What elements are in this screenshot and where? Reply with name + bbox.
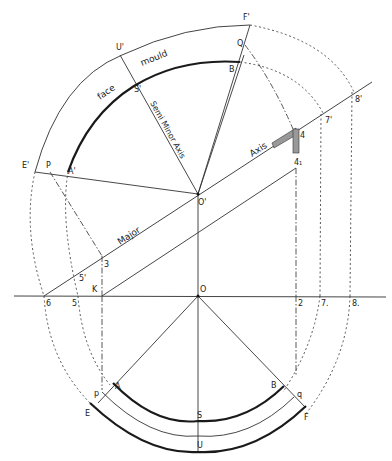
label-5-prime: 5': [79, 274, 86, 283]
radial-lower-a: [98, 296, 198, 403]
point-o-prime: [197, 193, 200, 196]
label-8-prime: 8': [355, 95, 362, 104]
mould-label: mould: [139, 48, 169, 68]
label-6: 6: [46, 299, 51, 308]
radial-line-e: [35, 172, 198, 194]
label-o-prime: O': [198, 198, 207, 207]
major-axis-line: [44, 82, 372, 296]
label-s-prime: S': [134, 85, 141, 94]
label-f-prime: F': [243, 13, 250, 22]
label-k: K: [92, 285, 98, 294]
face-mould-diagram: face mould Semi Minor Axis Major Axis F'…: [0, 0, 392, 461]
dash-p-to-3: [50, 172, 102, 256]
major-label: Major: [116, 225, 143, 247]
label-q: Q: [237, 39, 243, 48]
arc-q-to-4: [245, 45, 293, 129]
label-8: 8.: [352, 299, 360, 308]
label-s: S: [197, 411, 202, 420]
outer-mould-arc: [35, 25, 250, 172]
inner-mould-arc: [68, 62, 240, 173]
label-2: 2: [298, 299, 303, 308]
face-label: face: [95, 82, 117, 101]
label-p-upper: P: [46, 161, 51, 170]
label-o: O: [200, 285, 206, 294]
arc-5-to-p-lower: [78, 296, 110, 385]
label-p-lower: p: [94, 389, 99, 398]
label-u: U: [197, 441, 203, 450]
radial-line-f: [198, 25, 250, 194]
label-u-prime: U': [116, 43, 124, 52]
label-7-prime: 7': [325, 116, 332, 125]
label-3: 3: [104, 260, 109, 269]
label-4: 4: [300, 131, 305, 140]
label-7: 7.: [321, 299, 329, 308]
label-a-prime: A': [68, 167, 76, 176]
arc-6-to-e-lower: [44, 296, 90, 403]
label-e-prime: E': [22, 161, 29, 170]
arc-e-to-6: [30, 172, 44, 296]
label-a-lower: A: [115, 382, 121, 391]
arc-b-to-7: [240, 62, 323, 113]
label-5: 5: [72, 299, 77, 308]
arc-8-to-f-lower: [305, 296, 350, 415]
vertical-7: [320, 114, 321, 296]
ground-line: [14, 296, 386, 297]
semi-minor-axis-label: Semi Minor Axis: [148, 100, 187, 160]
label-b-lower: B: [271, 381, 277, 390]
label-f: F: [304, 413, 309, 422]
label-e: E: [85, 409, 90, 418]
arc-f-to-8: [250, 25, 354, 92]
point-o: [197, 295, 200, 298]
vertical-8: [350, 92, 352, 296]
arc-7-to-q-lower: [283, 296, 320, 392]
label-q-lower: q: [297, 390, 302, 399]
semi-minor-axis-line: [120, 55, 198, 194]
radial-lower-b: [198, 296, 306, 408]
label-b-upper: B: [229, 65, 235, 74]
label-4-sub: 4₁: [294, 158, 302, 167]
handrail-section-hatch: [272, 128, 299, 153]
radial-line-4: [198, 55, 244, 194]
